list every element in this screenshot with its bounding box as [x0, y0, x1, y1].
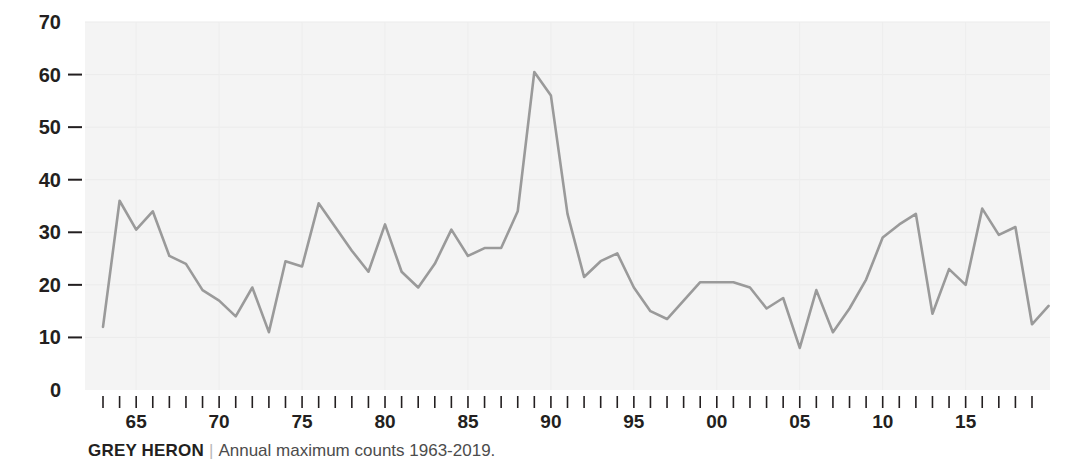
- x-axis-tick-label: 70: [209, 411, 230, 430]
- y-axis-tick-label: 30: [39, 221, 61, 243]
- x-axis-ticks: [103, 396, 1032, 408]
- x-axis-tick-label: 00: [706, 411, 727, 430]
- y-axis-tick-label: 70: [39, 11, 61, 33]
- line-chart-svg: 010203040506070 6570758085909500051015: [0, 0, 1087, 430]
- x-axis-tick-label: 05: [789, 411, 811, 430]
- x-axis-tick-label: 95: [623, 411, 645, 430]
- x-axis-tick-label: 85: [457, 411, 479, 430]
- x-axis-tick-label: 90: [540, 411, 561, 430]
- caption-title: GREY HERON: [88, 441, 204, 460]
- y-axis-labels: 010203040506070: [39, 11, 61, 401]
- x-axis-tick-label: 80: [374, 411, 395, 430]
- caption: GREY HERON|Annual maximum counts 1963-20…: [88, 440, 495, 462]
- caption-subtitle: Annual maximum counts 1963-2019.: [218, 441, 495, 460]
- y-axis-tick-label: 20: [39, 274, 61, 296]
- x-axis-tick-label: 75: [292, 411, 314, 430]
- chart-figure: 010203040506070 6570758085909500051015 G…: [0, 0, 1087, 475]
- x-axis-tick-label: 15: [955, 411, 977, 430]
- y-axis-tick-label: 10: [39, 326, 61, 348]
- x-axis-tick-label: 10: [872, 411, 893, 430]
- caption-separator: |: [204, 441, 218, 460]
- y-axis-tick-label: 50: [39, 116, 61, 138]
- y-axis-ticks: [68, 75, 82, 338]
- x-axis-tick-label: 65: [126, 411, 148, 430]
- x-axis-labels: 6570758085909500051015: [126, 411, 977, 430]
- y-axis-tick-label: 60: [39, 64, 61, 86]
- y-axis-tick-label: 40: [39, 169, 61, 191]
- chart-plot-area: 010203040506070 6570758085909500051015: [0, 0, 1087, 430]
- y-axis-tick-label: 0: [50, 379, 61, 401]
